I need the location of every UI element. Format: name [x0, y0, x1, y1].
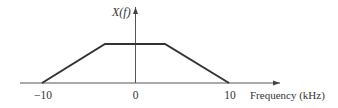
spectrum-diagram: X(f) −10 0 10 Frequency (kHz)	[0, 0, 338, 108]
tick-label-10: 10	[224, 89, 236, 101]
y-axis-label: X(f)	[111, 5, 131, 19]
tick-label-minus-10: −10	[34, 89, 52, 101]
tick-label-0: 0	[133, 89, 139, 101]
x-axis-label: Frequency (kHz)	[250, 89, 325, 102]
